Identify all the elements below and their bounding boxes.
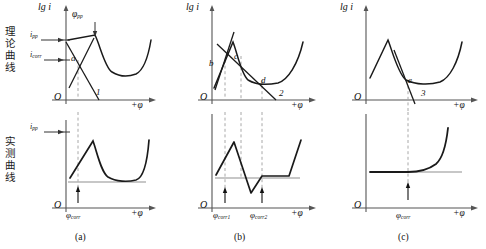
panel-a-bottom-i-pp-label: ipp xyxy=(30,123,38,132)
panel-c-bottom-x-axis-label: +φ xyxy=(453,209,465,219)
figure-root: 理论曲线 实测曲线 xyxy=(0,0,486,249)
panel-c-y-axis-label: lg i xyxy=(340,2,353,12)
panel-a-phi-corr-label: φcorr xyxy=(66,211,80,221)
panel-b-intersection-d-label: d xyxy=(261,76,266,85)
panel-c-top-x-axis-label: +φ xyxy=(453,101,465,111)
panel-a-i-corr-tick-label: icorr xyxy=(30,51,42,60)
panel-b-bottom-origin: O xyxy=(200,200,207,210)
panel-c-tag: (c) xyxy=(398,232,409,242)
panel-b-intersection-c-label: c xyxy=(234,52,238,61)
panel-b-top-x-axis-label: +φ xyxy=(291,101,303,111)
panel-a-phi-pp-label: φpp xyxy=(72,10,83,20)
panel-a-curve-number: 1 xyxy=(96,88,101,97)
panel-b-top-origin: O xyxy=(200,92,207,102)
panel-b: lg i b c d 2 O +φ O φcorr1 φcorr2 +φ (b) xyxy=(162,0,322,249)
panel-c: lg i e 3 O +φ O φcorr +φ (c) xyxy=(322,0,486,249)
panel-b-curve-number: 2 xyxy=(279,89,284,98)
panel-c-bottom-origin: O xyxy=(354,200,361,210)
panel-c-phi-corr-label: φcorr xyxy=(396,211,410,221)
panel-b-bottom-x-axis-label: +φ xyxy=(291,209,303,219)
panel-c-top-origin: O xyxy=(354,92,361,102)
panel-a: lg i φpp ipp icorr a 1 O +φ ipp O φcorr … xyxy=(0,0,162,249)
panel-b-phi-corr1-label: φcorr1 xyxy=(213,211,230,221)
panel-c-curve-number: 3 xyxy=(421,89,426,98)
panel-a-intersection-a-label: a xyxy=(71,54,76,63)
panel-a-y-axis-label: lg i xyxy=(38,2,51,12)
panel-a-top-origin: O xyxy=(54,92,61,102)
panel-a-bottom-origin: O xyxy=(54,200,61,210)
panel-b-phi-corr2-label: φcorr2 xyxy=(250,211,267,221)
panel-a-tag: (a) xyxy=(75,232,86,242)
panel-b-y-axis-label: lg i xyxy=(186,2,199,12)
panel-a-i-pp-tick-label: ipp xyxy=(30,31,38,40)
panel-b-intersection-b-label: b xyxy=(209,59,214,68)
panel-b-tag: (b) xyxy=(234,232,245,242)
panel-a-bottom-x-axis-label: +φ xyxy=(131,209,143,219)
panel-c-intersection-e-label: e xyxy=(408,76,412,85)
panel-a-top-x-axis-label: +φ xyxy=(131,101,143,111)
